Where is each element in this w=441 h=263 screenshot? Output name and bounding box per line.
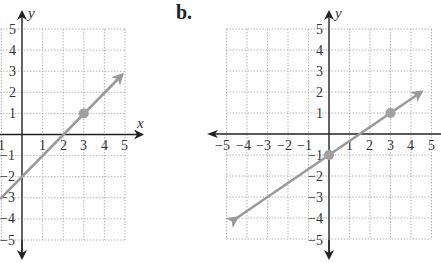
y-ticks-b: 5 4 3 2 1 −1 −2 −3 −4 −5 — [308, 22, 323, 248]
part-label-b: b. — [176, 1, 192, 23]
svg-text:5: 5 — [121, 138, 128, 153]
svg-text:−4: −4 — [308, 211, 323, 226]
svg-text:−4: −4 — [236, 138, 251, 153]
svg-text:4: 4 — [407, 138, 414, 153]
svg-text:4: 4 — [316, 43, 323, 58]
point-b-intercept — [324, 150, 334, 160]
graph-b: b. y — [176, 1, 441, 258]
svg-text:1: 1 — [316, 106, 323, 121]
svg-text:3: 3 — [80, 138, 87, 153]
svg-text:5: 5 — [9, 22, 16, 37]
svg-text:−2: −2 — [308, 169, 323, 184]
svg-text:−5: −5 — [0, 233, 15, 248]
svg-text:5: 5 — [316, 22, 323, 37]
svg-text:2: 2 — [316, 85, 323, 100]
svg-text:−2: −2 — [0, 169, 15, 184]
svg-text:−5: −5 — [215, 138, 230, 153]
y-axis-label-a: y — [26, 5, 35, 21]
svg-text:−2: −2 — [277, 138, 292, 153]
svg-text:1: 1 — [9, 106, 16, 121]
svg-text:4: 4 — [9, 43, 16, 58]
x-axis-label-a: x — [136, 115, 144, 131]
graph-a: y x 5 4 3 2 1 −1 −2 −3 −4 −5 1 1 2 3 4 5 — [0, 5, 144, 258]
svg-text:2: 2 — [60, 138, 67, 153]
svg-text:5: 5 — [428, 138, 435, 153]
svg-text:−4: −4 — [0, 211, 15, 226]
svg-text:1: 1 — [0, 138, 5, 153]
svg-text:−3: −3 — [308, 190, 323, 205]
line-a — [0, 75, 122, 199]
svg-text:−3: −3 — [256, 138, 271, 153]
svg-text:−5: −5 — [308, 233, 323, 248]
svg-text:2: 2 — [9, 85, 16, 100]
figure: y x 5 4 3 2 1 −1 −2 −3 −4 −5 1 1 2 3 4 5 — [0, 0, 441, 263]
y-axis-label-b: y — [333, 5, 342, 21]
svg-text:−1: −1 — [297, 138, 312, 153]
x-ticks-a: 1 1 2 3 4 5 — [0, 138, 128, 153]
svg-text:3: 3 — [316, 64, 323, 79]
x-ticks-b: −5 −4 −3 −2 −1 1 2 3 4 5 — [215, 138, 435, 153]
svg-text:4: 4 — [101, 138, 108, 153]
svg-text:3: 3 — [9, 64, 16, 79]
svg-text:3: 3 — [387, 138, 394, 153]
point-b — [386, 108, 396, 118]
svg-text:1: 1 — [39, 138, 46, 153]
svg-text:2: 2 — [366, 138, 373, 153]
point-a — [79, 108, 89, 118]
